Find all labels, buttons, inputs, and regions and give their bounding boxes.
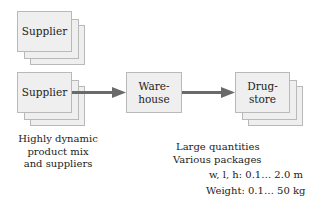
warehouse-note: Large quantities Various packages [173, 141, 261, 166]
supplier-note: Highly dynamic product mix and suppliers [18, 133, 98, 171]
weight-note: Weight: 0.1… 50 kg [206, 185, 305, 198]
supplier-note-line3: and suppliers [18, 158, 98, 171]
supplier-note-line2: product mix [18, 146, 98, 159]
warehouse-note-line2: Various packages [173, 154, 261, 167]
arrow-supplier-to-warehouse [72, 87, 126, 98]
supplier-note-line1: Highly dynamic [18, 133, 98, 146]
arrow-warehouse-to-drugstore [182, 87, 235, 98]
dimensions-note: w, l, h: 0.1… 2.0 m [209, 169, 303, 182]
warehouse-note-line1: Large quantities [173, 141, 261, 154]
